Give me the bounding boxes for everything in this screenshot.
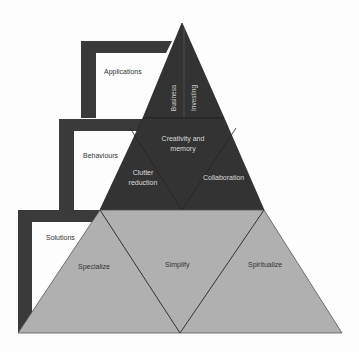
applications-label: Applications <box>104 68 142 75</box>
specialize-label: Specialize <box>78 263 110 270</box>
solutions-label: Solutions <box>46 234 75 241</box>
pyramid-diagram <box>0 0 359 352</box>
spiritualize-label: Spiritualize <box>248 261 282 268</box>
business-label: Business <box>170 85 177 111</box>
investing-label: Investing <box>190 85 197 111</box>
clutter-reduction-label: Clutter reduction <box>123 168 163 188</box>
behaviours-label: Behaviours <box>83 152 118 159</box>
top-tier <box>143 23 224 118</box>
creativity-label: Creativity and memory <box>153 134 213 154</box>
bottom-tier <box>18 210 342 333</box>
middle-tier <box>100 118 264 210</box>
simplify-label: Simplify <box>165 261 190 268</box>
collaboration-label: Collaboration <box>203 174 244 181</box>
